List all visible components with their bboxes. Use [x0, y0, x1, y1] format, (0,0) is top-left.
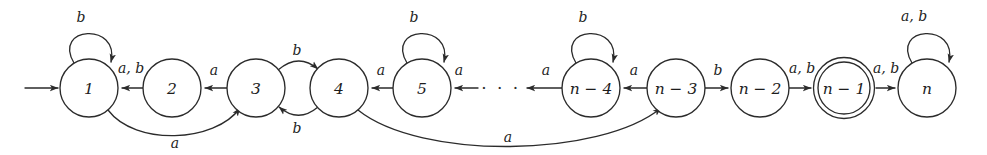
label-dots-to-5: a — [455, 62, 463, 78]
label-self-n: a, b — [901, 8, 927, 24]
finite-automaton-diagram: 1 2 3 4 5 n − 4 — [0, 0, 987, 155]
label-4-to-3: b — [293, 120, 302, 136]
state-1[interactable]: 1 — [60, 59, 118, 117]
label-3-to-4: b — [293, 42, 302, 58]
automaton-canvas: 1 2 3 4 5 n − 4 — [0, 0, 987, 155]
state-5[interactable]: 5 — [393, 59, 451, 117]
transition-3-to-4 — [278, 61, 318, 70]
state-n-label: n — [922, 80, 932, 98]
state-n-minus-3-label: n − 3 — [655, 80, 698, 98]
state-n-minus-1-accepting[interactable]: n − 1 — [814, 58, 875, 119]
state-n-minus-4[interactable]: n − 4 — [562, 59, 620, 117]
state-n-minus-2-label: n − 2 — [739, 80, 782, 98]
label-n4-to-dots: a — [542, 62, 550, 78]
label-5-to-4: a — [377, 62, 385, 78]
state-n-minus-4-label: n − 4 — [570, 80, 613, 98]
label-n1-to-n: a, b — [873, 60, 899, 76]
state-n-minus-2[interactable]: n − 2 — [731, 59, 789, 117]
state-3[interactable]: 3 — [227, 59, 285, 117]
label-n3-to-n2: b — [714, 62, 723, 78]
state-1-label: 1 — [84, 80, 94, 98]
label-arc-1-to-3: a — [171, 135, 179, 151]
state-2[interactable]: 2 — [143, 59, 201, 117]
ellipsis: · · · — [481, 78, 521, 98]
state-3-label: 3 — [251, 80, 261, 98]
state-5-label: 5 — [417, 80, 427, 98]
label-self-1: b — [77, 9, 86, 25]
label-self-n4: b — [579, 9, 588, 25]
label-n3-to-n4: a — [630, 62, 638, 78]
label-3-to-2: a — [210, 62, 218, 78]
state-n-minus-3[interactable]: n − 3 — [647, 59, 705, 117]
label-n2-to-n1: a, b — [789, 60, 815, 76]
label-arc-4-to-n3: a — [504, 129, 512, 145]
label-2-to-1: a, b — [118, 60, 144, 76]
transition-4-to-3 — [279, 107, 318, 115]
state-n-minus-1-label: n − 1 — [823, 80, 866, 98]
state-n[interactable]: n — [898, 59, 956, 117]
state-4[interactable]: 4 — [310, 59, 368, 117]
state-4-label: 4 — [333, 80, 344, 98]
label-self-5: b — [410, 9, 419, 25]
state-2-label: 2 — [166, 80, 177, 98]
